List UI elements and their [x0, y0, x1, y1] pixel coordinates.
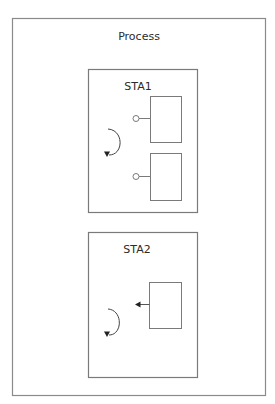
diagram-svg — [0, 0, 275, 404]
state-sta2-label: STA2 — [123, 244, 150, 255]
diagram-canvas: Process STA1 STA2 — [0, 0, 275, 404]
sta2-component-box — [150, 283, 182, 329]
loop-arrowhead-icon — [104, 332, 110, 338]
outgoing-arrowhead-icon — [135, 302, 141, 308]
self-loop-arrow-icon — [108, 129, 120, 155]
self-loop-arrow-icon — [108, 309, 119, 335]
sta1-component-box-2 — [151, 154, 182, 201]
state-sta1-label: STA1 — [124, 81, 151, 92]
lollipop-port-icon — [133, 116, 139, 122]
loop-arrowhead-icon — [104, 152, 110, 158]
process-label: Process — [118, 31, 160, 42]
process-frame — [13, 19, 266, 396]
sta1-component-box-1 — [151, 97, 182, 143]
lollipop-port-icon — [133, 174, 139, 180]
